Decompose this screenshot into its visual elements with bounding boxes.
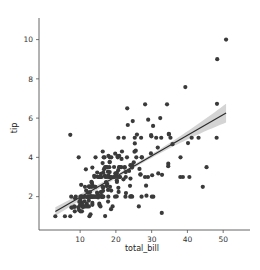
scatter-point	[90, 180, 94, 184]
scatter-point	[124, 170, 128, 174]
scatter-point	[146, 118, 150, 122]
scatter-point	[116, 136, 120, 140]
scatter-point	[106, 199, 110, 203]
x-tick-label: 10	[75, 235, 85, 244]
scatter-point	[105, 175, 109, 179]
scatter-point	[156, 171, 160, 175]
scatter-point	[116, 155, 120, 159]
scatter-point	[109, 207, 113, 211]
scatter-point	[132, 150, 136, 154]
scatter-point	[144, 184, 148, 188]
scatter-point	[128, 176, 132, 180]
scatter-point	[167, 132, 171, 136]
scatter-point	[150, 173, 154, 177]
scatter-point	[215, 102, 219, 106]
scatter-point	[109, 155, 113, 159]
y-tick-label: 2	[28, 192, 33, 201]
scatter-point	[70, 206, 74, 210]
scatter-point	[90, 165, 94, 169]
scatter-point	[143, 102, 147, 106]
scatter-point	[112, 165, 116, 169]
scatter-point	[125, 155, 129, 159]
scatter-point	[124, 191, 128, 195]
scatter-point	[81, 205, 85, 209]
scatter-point	[78, 195, 82, 199]
scatter-point	[69, 195, 73, 199]
scatter-point	[187, 175, 191, 179]
scatter-point	[139, 136, 143, 140]
scatter-point	[102, 155, 106, 159]
scatter-point	[113, 152, 117, 156]
scatter-point	[128, 195, 132, 199]
y-axis-ticks: 246810	[23, 35, 39, 201]
scatter-point	[95, 170, 99, 174]
x-tick-label: 40	[183, 235, 193, 244]
scatter-point	[104, 180, 108, 184]
scatter-point	[131, 119, 135, 123]
scatter-point	[149, 151, 153, 155]
scatter-point	[101, 149, 105, 153]
y-tick-label: 6	[28, 114, 33, 123]
scatter-point	[101, 189, 105, 193]
scatter-point	[101, 161, 105, 165]
scatter-point	[156, 145, 160, 149]
scatter-point	[101, 170, 105, 174]
scatter-plot-svg: 1020304050 246810 total_bill tip	[0, 0, 260, 270]
scatter-point	[196, 136, 200, 140]
scatter-point	[224, 37, 228, 41]
scatter-point	[133, 141, 137, 145]
scatter-point	[178, 155, 182, 159]
scatter-point	[108, 170, 112, 174]
scatter-point	[109, 188, 113, 192]
scatter-point	[120, 149, 124, 153]
scatter-point	[143, 175, 147, 179]
scatter-point	[125, 106, 129, 110]
scatter-point	[84, 167, 88, 171]
scatter-point	[117, 190, 121, 194]
scatter-point	[158, 116, 162, 120]
scatter-point	[92, 175, 96, 179]
scatter-point	[93, 155, 97, 159]
scatter-point	[137, 167, 141, 171]
scatter-point	[154, 136, 158, 140]
scatter-point	[90, 185, 94, 189]
scatter-point	[204, 165, 208, 169]
figure-canvas: 1020304050 246810 total_bill tip	[0, 0, 260, 270]
scatter-point	[166, 162, 170, 166]
scatter-point	[103, 214, 107, 218]
scatter-point	[73, 196, 77, 200]
scatter-point	[121, 177, 125, 181]
scatter-point	[149, 133, 153, 137]
scatter-point	[151, 124, 155, 128]
scatter-point	[79, 183, 83, 187]
scatter-point	[87, 214, 91, 218]
scatter-point	[106, 195, 110, 199]
y-tick-label: 4	[28, 153, 33, 162]
scatter-point	[160, 173, 164, 177]
x-axis-ticks: 1020304050	[75, 230, 228, 244]
scatter-point	[160, 211, 164, 215]
x-tick-label: 50	[218, 235, 228, 244]
scatter-point	[100, 185, 104, 189]
scatter-point	[98, 204, 102, 208]
x-tick-label: 30	[147, 235, 157, 244]
scatter-point	[130, 165, 134, 169]
y-tick-label: 8	[28, 75, 33, 84]
scatter-point	[215, 57, 219, 61]
scatter-point	[63, 214, 67, 218]
scatter-point	[126, 123, 130, 127]
scatter-point	[170, 142, 174, 146]
scatter-point	[86, 191, 90, 195]
scatter-point	[215, 136, 219, 140]
scatter-point	[128, 184, 132, 188]
scatter-point	[98, 175, 102, 179]
y-axis-label: tip	[10, 123, 19, 133]
scatter-point	[115, 175, 119, 179]
scatter-point	[73, 209, 77, 213]
scatter-point	[108, 160, 112, 164]
scatter-point	[68, 133, 72, 137]
scatter-point	[77, 155, 81, 159]
scatter-point	[68, 214, 72, 218]
scatter-point	[89, 195, 93, 199]
scatter-point	[181, 175, 185, 179]
